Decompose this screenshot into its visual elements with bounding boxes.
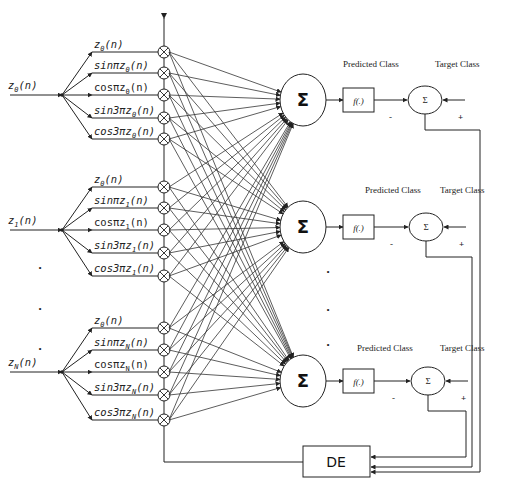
- weight-link: [169, 208, 280, 224]
- ellipsis-dot: •: [38, 263, 41, 273]
- expansion-label: sin3πzN(n): [94, 381, 155, 396]
- activation-block: f(.): [343, 215, 374, 239]
- expansion-label: z0(n): [94, 314, 124, 329]
- weight-link: [169, 52, 293, 357]
- output-stage-2: f(.)ΣPredicted ClassTarget Class-+: [326, 343, 485, 457]
- weight-link: [169, 228, 280, 230]
- multiplier-node: [158, 344, 170, 356]
- multiplier-node: [158, 67, 170, 79]
- ellipsis-dot: •: [38, 344, 41, 354]
- multiplier-node: [158, 270, 170, 282]
- weight-link: [169, 208, 288, 361]
- svg-text:Σ: Σ: [422, 95, 427, 105]
- error-feedback-line: [371, 241, 472, 467]
- ellipsis-dot: •: [38, 304, 41, 314]
- multiplier-node: [158, 133, 170, 145]
- expansion-label: sinπz1(n): [94, 194, 149, 209]
- svg-text:f(.): f(.): [353, 223, 364, 233]
- svg-text:Σ: Σ: [297, 370, 309, 391]
- multiplier-node: [158, 389, 170, 401]
- activation-block: f(.): [343, 369, 374, 393]
- weight-link: [169, 372, 280, 379]
- multiplier-node: [158, 366, 170, 378]
- input-label: zN(n): [8, 356, 38, 371]
- expansion-label: cosπz0(n): [94, 81, 149, 96]
- sum-node-0: Σ: [280, 74, 326, 126]
- svg-text:f(.): f(.): [353, 377, 364, 387]
- plus-sign: +: [458, 112, 463, 122]
- sum-node-n: Σ: [280, 355, 326, 407]
- weight-link: [169, 388, 281, 420]
- target-class-label: Target Class: [440, 185, 485, 195]
- minus-sign: -: [390, 239, 393, 249]
- error-sum-node: Σ: [409, 213, 443, 241]
- weight-link: [169, 120, 288, 276]
- expansion-label: cos3πz0(n): [94, 125, 155, 140]
- error-feedback-line: [371, 395, 466, 457]
- expansion-label: sin3πz1(n): [94, 239, 155, 254]
- svg-text:Σ: Σ: [423, 222, 428, 232]
- expansion-label: cosπzN(n): [94, 358, 149, 373]
- multiplier-node: [158, 202, 170, 214]
- input-group-0: z0(n)z0(n)sinπz0(n)cosπz0(n)sin3πz0(n)co…: [8, 38, 170, 145]
- expansion-label: z0(n): [94, 38, 124, 53]
- multiplier-node: [158, 224, 170, 236]
- weight-link: [169, 95, 292, 358]
- weight-link: [169, 118, 284, 212]
- weight-link: [169, 52, 288, 207]
- weight-link: [169, 122, 290, 328]
- input-group-1: z1(n)z0(n)sinπz1(n)cosπz1(n)sin3πz1(n)co…: [8, 173, 170, 282]
- multiplier-node: [158, 247, 170, 259]
- weight-link: [169, 231, 280, 253]
- expansion-label: cosπz1(n): [94, 216, 149, 231]
- activation-block: f(.): [343, 88, 374, 112]
- input-group-2: zN(n)z0(n)sinπzN(n)cosπzN(n)sin3πzN(n)co…: [8, 314, 170, 426]
- input-label: z0(n): [8, 79, 38, 94]
- predicted-class-label: Predicted Class: [357, 343, 413, 353]
- target-class-label: Target Class: [435, 59, 480, 69]
- minus-sign: -: [389, 112, 392, 122]
- multiplier-node: [158, 46, 170, 58]
- weight-link: [169, 383, 280, 395]
- error-sum-node: Σ: [411, 367, 445, 395]
- error-sum-node: Σ: [408, 86, 442, 114]
- expansion-label: sinπzN(n): [94, 336, 149, 351]
- de-optimizer-block: DE: [303, 446, 370, 477]
- multiplier-node: [158, 89, 170, 101]
- svg-text:f(.): f(.): [353, 96, 364, 106]
- predicted-class-label: Predicted Class: [343, 59, 399, 69]
- svg-text:DE: DE: [326, 454, 346, 470]
- weight-link: [169, 243, 285, 350]
- input-label: z1(n): [8, 214, 38, 229]
- expansion-label: sin3πz0(n): [94, 104, 155, 119]
- weight-link: [169, 187, 281, 220]
- ellipsis-dot: •: [326, 267, 329, 277]
- error-feedback-line: [371, 114, 480, 472]
- weight-link: [169, 276, 284, 366]
- multiplier-node: [158, 181, 170, 193]
- weight-link: [169, 123, 293, 395]
- plus-sign: +: [459, 239, 464, 249]
- sum-node-1: Σ: [280, 201, 326, 253]
- multiplier-node: [158, 112, 170, 124]
- expansion-label: z0(n): [94, 173, 124, 188]
- output-stage-0: f(.)ΣPredicted ClassTarget Class-+: [326, 59, 480, 472]
- output-stage-1: f(.)ΣPredicted ClassTarget Class-+: [326, 185, 485, 467]
- expansion-label: sinπz0(n): [94, 59, 149, 74]
- ellipsis-dot: •: [326, 305, 329, 315]
- weight-link: [169, 52, 281, 92]
- weight-link: [169, 235, 281, 276]
- svg-text:Σ: Σ: [297, 216, 309, 237]
- expansion-label: cos3πzN(n): [94, 406, 155, 421]
- target-class-label: Target Class: [440, 343, 485, 353]
- svg-text:Σ: Σ: [425, 376, 430, 386]
- multiplier-node: [158, 322, 170, 334]
- weight-link: [169, 95, 280, 99]
- ellipsis-dot: •: [326, 340, 329, 350]
- flann-de-diagram: z0(n)z0(n)sinπz0(n)cosπz0(n)sin3πz0(n)co…: [0, 0, 508, 497]
- minus-sign: -: [392, 393, 395, 403]
- plus-sign: +: [461, 393, 466, 403]
- expansion-label: cos3πz1(n): [94, 262, 155, 277]
- predicted-class-label: Predicted Class: [365, 185, 421, 195]
- multiplier-node: [158, 414, 170, 426]
